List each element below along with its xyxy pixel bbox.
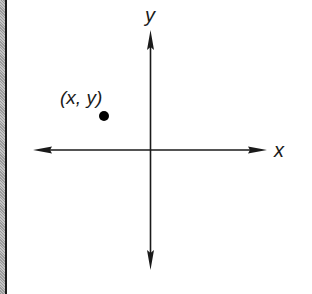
point-marker	[99, 111, 109, 121]
coordinate-plane: y x (x, y)	[0, 0, 312, 294]
x-axis-right-arrow-icon	[248, 147, 267, 154]
x-axis-label: x	[273, 139, 285, 161]
point-label: (x, y)	[60, 87, 102, 108]
x-axis-left-arrow-icon	[33, 147, 52, 154]
y-axis-label: y	[143, 4, 156, 26]
y-axis-down-arrow-icon	[147, 250, 154, 270]
y-axis-up-arrow-icon	[147, 30, 154, 50]
